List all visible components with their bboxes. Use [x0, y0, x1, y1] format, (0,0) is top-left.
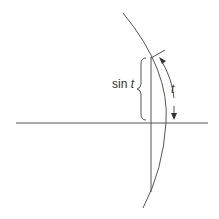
sin-brace [137, 58, 146, 120]
unit-circle-diagram [0, 0, 219, 219]
arc-t-label: t [171, 83, 174, 95]
arrowhead-up-icon [159, 57, 166, 64]
sin-t-label: sin t [112, 78, 134, 90]
circle-arc [123, 13, 166, 208]
arrowhead-down-icon [171, 113, 177, 120]
tangent-tick [151, 50, 165, 58]
sin-variable: t [131, 77, 134, 91]
sin-text: sin [112, 77, 127, 91]
